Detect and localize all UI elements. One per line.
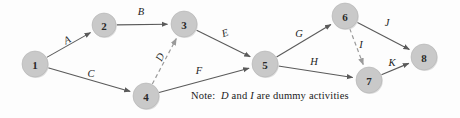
note-middle: and (232, 90, 248, 101)
edge-label-i: I (358, 39, 363, 50)
node-label-2: 2 (101, 20, 107, 32)
node-label-6: 6 (342, 11, 348, 23)
note-dummy-b: I (250, 90, 254, 101)
edge-2-to-3 (117, 24, 168, 25)
edge-label-c: C (87, 68, 95, 79)
node-2[interactable]: 2 (92, 13, 117, 38)
node-6[interactable]: 6 (332, 3, 359, 30)
edge-label-g: G (295, 28, 303, 39)
edge-label-h: H (309, 56, 319, 67)
edge-label-a: A (61, 33, 73, 46)
node-8[interactable]: 8 (411, 44, 438, 71)
node-7[interactable]: 7 (356, 67, 383, 94)
edge-4-to-5 (159, 68, 249, 92)
node-3[interactable]: 3 (171, 11, 198, 38)
node-5[interactable]: 5 (252, 51, 279, 78)
node-label-3: 3 (181, 19, 187, 31)
note-suffix: are dummy activities (257, 90, 349, 101)
note-dummy-a: D (221, 90, 229, 101)
edge-4-to-3 (152, 39, 176, 84)
node-1[interactable]: 1 (22, 51, 49, 78)
edge-6-to-8 (357, 22, 409, 49)
edge-label-j: J (385, 17, 391, 28)
diagram-canvas: 12345678 ABCDEFGHIJK Note: D and I are d… (0, 0, 460, 118)
edge-label-b: B (138, 6, 145, 17)
node-label-1: 1 (32, 59, 38, 71)
note-prefix: Note: (191, 90, 215, 101)
node-label-5: 5 (262, 59, 268, 71)
node-label-8: 8 (421, 52, 427, 64)
node-4[interactable]: 4 (133, 83, 160, 110)
edge-5-to-6 (277, 24, 331, 57)
diagram-note: Note: D and I are dummy activities (191, 90, 349, 101)
edge-label-d: D (153, 51, 167, 64)
node-label-4: 4 (143, 91, 149, 103)
edge-label-k: K (387, 57, 396, 68)
edge-label-e: E (219, 27, 230, 40)
edge-5-to-7 (278, 66, 352, 77)
edge-label-f: F (195, 65, 203, 76)
node-label-7: 7 (366, 75, 372, 87)
